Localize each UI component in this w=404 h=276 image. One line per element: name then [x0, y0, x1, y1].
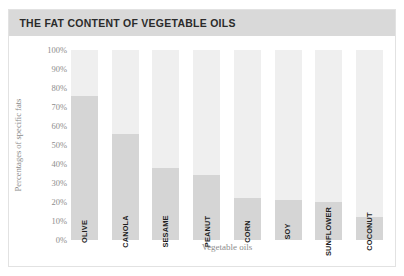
- bar-column[interactable]: SUNFLOWER: [315, 50, 342, 240]
- y-axis-tick: 30%: [51, 178, 67, 188]
- bar-column[interactable]: PEANUT: [193, 50, 220, 240]
- y-axis-tick: 70%: [51, 102, 67, 112]
- bar-fill: [234, 198, 261, 240]
- y-axis-tick: 50%: [51, 140, 67, 150]
- bar-column[interactable]: OLIVE: [71, 50, 98, 240]
- plot-area: Percentages of specific fats 100%90%80%7…: [9, 36, 395, 266]
- bars-region: OLIVECANOLASESAMEPEANUTCORNSOYSUNFLOWERC…: [71, 50, 383, 240]
- y-axis-tick: 10%: [51, 216, 67, 226]
- bar-group: OLIVECANOLASESAMEPEANUTCORNSOYSUNFLOWERC…: [71, 50, 383, 240]
- y-axis-tick: 40%: [51, 159, 67, 169]
- y-axis-tick: 0%: [56, 235, 67, 245]
- y-axis-tick: 20%: [51, 197, 67, 207]
- bar-fill: [152, 168, 179, 240]
- chart-title-bar: THE FAT CONTENT OF VEGETABLE OILS: [9, 10, 395, 36]
- page-title: THE FAT CONTENT OF VEGETABLE OILS: [9, 17, 236, 29]
- y-axis-tick: 80%: [51, 83, 67, 93]
- bar-fill: [193, 175, 220, 240]
- bar-column[interactable]: SESAME: [152, 50, 179, 240]
- bar-fill: [71, 96, 98, 240]
- bar-column[interactable]: CANOLA: [112, 50, 139, 240]
- bar-column[interactable]: SOY: [275, 50, 302, 240]
- bar-track: [356, 50, 383, 240]
- x-axis-label: Vegetable oils: [71, 242, 383, 252]
- y-axis-tick: 90%: [51, 64, 67, 74]
- y-axis-tick: 100%: [47, 45, 67, 55]
- bar-column[interactable]: CORN: [234, 50, 261, 240]
- chart-card: THE FAT CONTENT OF VEGETABLE OILS Percen…: [8, 9, 396, 267]
- bar-fill: [315, 202, 342, 240]
- bar-column[interactable]: COCONUT: [356, 50, 383, 240]
- y-axis-label-text: Percentages of specific fats: [13, 99, 23, 192]
- bar-fill: [112, 134, 139, 240]
- bar-fill: [356, 217, 383, 240]
- bar-fill: [275, 200, 302, 240]
- chart-page: THE FAT CONTENT OF VEGETABLE OILS Percen…: [0, 0, 404, 276]
- y-axis-tick: 60%: [51, 121, 67, 131]
- y-axis-ticks: 100%90%80%70%60%50%40%30%20%10%0%: [25, 50, 67, 240]
- y-axis-label: Percentages of specific fats: [11, 50, 25, 240]
